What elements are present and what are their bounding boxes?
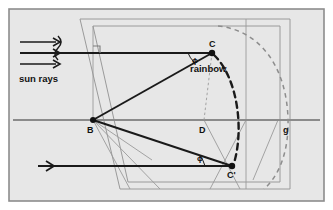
label-point-c: C (209, 39, 216, 49)
label-sun-rays: sun rays (19, 73, 58, 84)
point-c-dot (209, 50, 215, 56)
point-b-dot (90, 117, 96, 123)
label-angle-phi-bottom: ϕ (197, 154, 203, 163)
label-point-b: B (87, 125, 94, 135)
label-point-c-prime: C' (227, 170, 236, 180)
label-rainbow: rainbow (190, 63, 227, 74)
label-point-d: D (199, 125, 206, 135)
label-point-g: g (283, 125, 289, 135)
rainbow-diagram-figure: B C C' D g ϕ ϕ sun rays rainbow (0, 0, 333, 210)
diagram-canvas: B C C' D g ϕ ϕ sun rays rainbow (0, 0, 333, 210)
point-c-prime-dot (229, 163, 235, 169)
